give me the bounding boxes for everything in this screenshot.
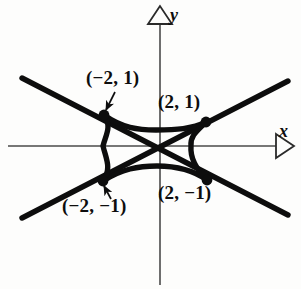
hyperbola-figure: (−2, 1) (2, 1) (−2, −1) (2, −1) y x: [0, 0, 301, 289]
point-label-lower-left: (−2, −1): [62, 196, 126, 215]
leader-arrow-upper-left: [106, 92, 115, 110]
point-label-lower-right: (2, −1): [158, 183, 211, 202]
graph-canvas: [0, 0, 301, 289]
point-label-upper-right: (2, 1): [158, 92, 200, 111]
point-label-upper-left: (−2, 1): [86, 68, 139, 87]
point-dot-upper-left: [99, 110, 110, 121]
x-axis-label: x: [279, 122, 288, 140]
point-dot-lower-left: [98, 176, 109, 187]
point-dot-upper-right: [201, 117, 212, 128]
hyperbola-left-branch: [103, 115, 108, 181]
y-axis-arrow-icon: [148, 6, 172, 24]
y-axis-label: y: [170, 6, 178, 24]
